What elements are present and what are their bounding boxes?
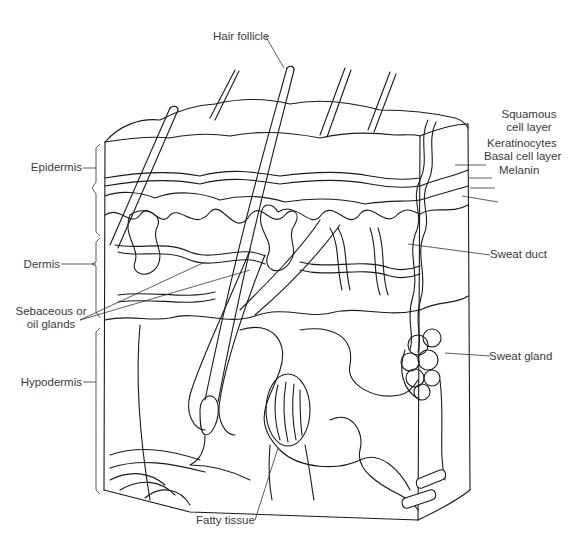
label-squamous-line1: Squamous <box>494 108 564 121</box>
label-melanin: Melanin <box>499 164 539 177</box>
label-sweat-duct: Sweat duct <box>490 248 547 261</box>
label-sebaceous-line2: oil glands <box>15 318 87 331</box>
label-sweat-gland: Sweat gland <box>489 350 552 363</box>
label-epidermis: Epidermis <box>10 161 82 174</box>
label-sebaceous-line1: Sebaceous or <box>15 305 87 318</box>
label-squamous-line2: cell layer <box>494 121 564 134</box>
skin-illustration <box>0 0 576 550</box>
label-basal-cell-layer: Basal cell layer <box>484 150 561 163</box>
skin-cross-section-diagram: Hair follicle Squamous cell layer Kerati… <box>0 0 576 550</box>
label-keratinocytes: Keratinocytes <box>487 137 557 150</box>
label-dermis: Dermis <box>10 258 60 271</box>
label-fatty-tissue: Fatty tissue <box>196 514 255 527</box>
label-hair-follicle: Hair follicle <box>213 30 269 43</box>
label-hypodermis: Hypodermis <box>10 376 82 389</box>
